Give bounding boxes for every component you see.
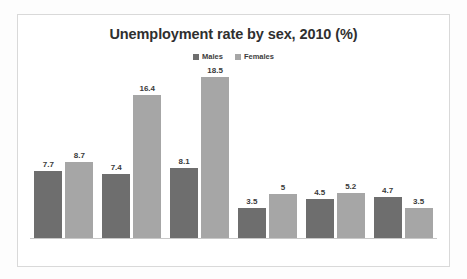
bar-rect[interactable] bbox=[102, 174, 130, 238]
chart-container: Unemployment rate by sex, 2010 (%) Males… bbox=[17, 14, 450, 267]
bar-males[interactable]: 4.7 bbox=[374, 67, 402, 238]
chart-legend: Males Females bbox=[18, 52, 449, 61]
bar-value-label: 3.5 bbox=[246, 198, 257, 206]
bar-value-label: 8.7 bbox=[74, 152, 85, 160]
bar-females[interactable]: 5 bbox=[269, 67, 297, 238]
bar-value-label: 7.7 bbox=[43, 161, 54, 169]
bar-females[interactable]: 18.5 bbox=[201, 67, 229, 238]
bar-females[interactable]: 8.7 bbox=[65, 67, 93, 238]
plot-area: 7.78.77.416.48.118.53.554.55.24.73.5 bbox=[30, 67, 437, 252]
bar-rect[interactable] bbox=[374, 197, 402, 238]
bar-males[interactable]: 4.5 bbox=[306, 67, 334, 238]
bar-value-label: 18.5 bbox=[207, 67, 223, 75]
bar-group: 8.118.5 bbox=[166, 67, 234, 238]
bar-females[interactable]: 16.4 bbox=[133, 67, 161, 238]
bar-value-label: 3.5 bbox=[413, 198, 424, 206]
bar-rect[interactable] bbox=[133, 95, 161, 238]
bar-rect[interactable] bbox=[405, 208, 433, 238]
bar-rect[interactable] bbox=[170, 168, 198, 238]
bar-males[interactable]: 8.1 bbox=[170, 67, 198, 238]
x-axis-line bbox=[30, 238, 437, 239]
bar-females[interactable]: 5.2 bbox=[337, 67, 365, 238]
bar-rect[interactable] bbox=[34, 171, 62, 238]
bar-group: 7.78.7 bbox=[30, 67, 98, 238]
x-axis-labels bbox=[30, 240, 437, 252]
bar-rect[interactable] bbox=[238, 208, 266, 238]
square-marker-icon bbox=[235, 54, 241, 60]
bar-rect[interactable] bbox=[269, 194, 297, 238]
bar-rect[interactable] bbox=[201, 77, 229, 238]
bar-groups: 7.78.77.416.48.118.53.554.55.24.73.5 bbox=[30, 67, 437, 238]
bar-group: 3.55 bbox=[233, 67, 301, 238]
bar-value-label: 4.5 bbox=[314, 189, 325, 197]
bar-males[interactable]: 7.4 bbox=[102, 67, 130, 238]
bar-group: 4.55.2 bbox=[301, 67, 369, 238]
bar-group: 7.416.4 bbox=[98, 67, 166, 238]
bar-value-label: 16.4 bbox=[139, 85, 155, 93]
bar-males[interactable]: 7.7 bbox=[34, 67, 62, 238]
bar-value-label: 4.7 bbox=[382, 187, 393, 195]
bar-rect[interactable] bbox=[306, 199, 334, 238]
legend-item-males[interactable]: Males bbox=[193, 52, 223, 61]
legend-label-females: Females bbox=[244, 52, 274, 61]
bar-females[interactable]: 3.5 bbox=[405, 67, 433, 238]
bar-value-label: 5.2 bbox=[345, 183, 356, 191]
chart-title: Unemployment rate by sex, 2010 (%) bbox=[18, 26, 449, 42]
bar-rect[interactable] bbox=[337, 193, 365, 238]
bar-value-label: 7.4 bbox=[111, 164, 122, 172]
bar-rect[interactable] bbox=[65, 162, 93, 238]
bar-value-label: 5 bbox=[281, 184, 285, 192]
bar-group: 4.73.5 bbox=[369, 67, 437, 238]
legend-label-males: Males bbox=[202, 52, 223, 61]
square-marker-icon bbox=[193, 54, 199, 60]
bar-value-label: 8.1 bbox=[179, 158, 190, 166]
legend-item-females[interactable]: Females bbox=[235, 52, 274, 61]
bar-males[interactable]: 3.5 bbox=[238, 67, 266, 238]
